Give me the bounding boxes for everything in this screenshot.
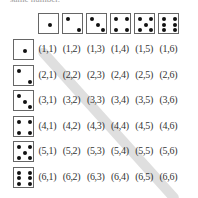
row-die-2-icon xyxy=(13,65,34,86)
pip-dot xyxy=(149,28,153,32)
outcome-cell: (2,4) xyxy=(111,69,129,80)
outcome-cell: (6,3) xyxy=(87,171,105,182)
row-die-5-icon xyxy=(13,141,34,162)
outcome-cell: (6,1) xyxy=(39,171,57,182)
column-die-4-icon xyxy=(110,13,131,34)
outcome-cell: (6,4) xyxy=(111,171,129,182)
pip-dot xyxy=(90,17,94,21)
pip-dot xyxy=(17,182,21,186)
outcome-cell: (4,5) xyxy=(135,120,153,131)
pip-dot xyxy=(28,105,32,109)
outcome-cell: (3,5) xyxy=(135,94,153,105)
pip-dot xyxy=(17,176,21,180)
outcome-cell: (1,4) xyxy=(111,43,129,54)
outcome-cell: (5,4) xyxy=(111,145,129,156)
outcome-cell: (4,1) xyxy=(39,120,57,131)
outcome-cell: (5,3) xyxy=(87,145,105,156)
outcome-cell: (4,4) xyxy=(111,120,129,131)
outcome-cell: (2,3) xyxy=(87,69,105,80)
outcome-cell: (5,5) xyxy=(135,145,153,156)
pip-dot xyxy=(66,17,70,21)
outcome-cell: (3,1) xyxy=(39,94,57,105)
outcome-cell: (1,6) xyxy=(160,43,178,54)
outcome-cell: (1,2) xyxy=(63,43,81,54)
outcome-cell: (6,6) xyxy=(160,171,178,182)
pip-dot xyxy=(28,120,32,124)
pip-dot xyxy=(17,156,21,160)
pip-dot xyxy=(28,131,32,135)
outcome-cell: (6,5) xyxy=(135,171,153,182)
outcome-cell: (3,6) xyxy=(160,94,178,105)
pip-dot xyxy=(17,171,21,175)
outcome-cell: (5,1) xyxy=(39,145,57,156)
outcome-cell: (3,3) xyxy=(87,94,105,105)
pip-dot xyxy=(173,28,177,32)
pip-dot xyxy=(17,69,21,73)
outcome-cell: (4,2) xyxy=(63,120,81,131)
pip-dot xyxy=(114,28,118,32)
pip-dot xyxy=(17,131,21,135)
pip-dot xyxy=(23,151,27,155)
row-die-6-icon xyxy=(13,167,34,188)
row-die-1-icon xyxy=(13,39,34,60)
pip-dot xyxy=(17,145,21,149)
pip-dot xyxy=(23,100,27,104)
outcome-cell: (3,2) xyxy=(63,94,81,105)
outcome-cell: (1,3) xyxy=(87,43,105,54)
pip-dot xyxy=(173,23,177,27)
pip-dot xyxy=(162,17,166,21)
pip-dot xyxy=(114,17,118,21)
outcome-cell: (1,5) xyxy=(135,43,153,54)
pip-dot xyxy=(77,28,81,32)
pip-dot xyxy=(162,28,166,32)
column-die-6-icon xyxy=(158,13,179,34)
outcome-cell: (5,2) xyxy=(63,145,81,156)
outcome-cell: (4,6) xyxy=(160,120,178,131)
outcome-cell: (5,6) xyxy=(160,145,178,156)
pip-dot xyxy=(23,49,27,53)
outcome-cell: (4,3) xyxy=(87,120,105,131)
outcome-cell: (2,2) xyxy=(63,69,81,80)
pip-dot xyxy=(28,176,32,180)
column-die-1-icon xyxy=(38,13,59,34)
column-die-3-icon xyxy=(86,13,107,34)
pip-dot xyxy=(138,17,142,21)
outcome-cell: (2,6) xyxy=(160,69,178,80)
column-die-2-icon xyxy=(62,13,83,34)
outcome-cell: (2,1) xyxy=(39,69,57,80)
caption-text: same number. xyxy=(10,0,60,4)
pip-dot xyxy=(125,28,129,32)
pip-dot xyxy=(149,17,153,21)
pip-dot xyxy=(144,23,148,27)
pip-dot xyxy=(28,145,32,149)
pip-dot xyxy=(125,17,129,21)
outcome-cell: (6,2) xyxy=(63,171,81,182)
pip-dot xyxy=(28,182,32,186)
row-die-3-icon xyxy=(13,90,34,111)
column-die-5-icon xyxy=(134,13,155,34)
outcome-cell: (2,5) xyxy=(135,69,153,80)
pip-dot xyxy=(162,23,166,27)
row-die-4-icon xyxy=(13,116,34,137)
pip-dot xyxy=(96,23,100,27)
pip-dot xyxy=(28,80,32,84)
pip-dot xyxy=(101,28,105,32)
pip-dot xyxy=(17,94,21,98)
pip-dot xyxy=(17,120,21,124)
pip-dot xyxy=(28,156,32,160)
pip-dot xyxy=(138,28,142,32)
pip-dot xyxy=(48,23,52,27)
outcome-cell: (1,1) xyxy=(39,43,57,54)
outcome-cell: (3,4) xyxy=(111,94,129,105)
pip-dot xyxy=(28,171,32,175)
pip-dot xyxy=(173,17,177,21)
